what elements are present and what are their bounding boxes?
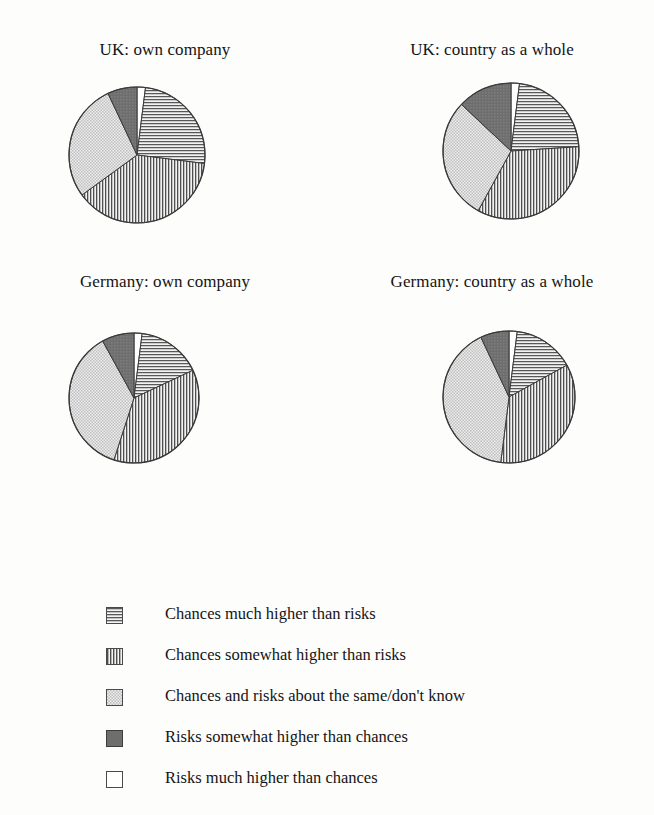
chart-title-germany-own-company: Germany: own company (0, 272, 330, 292)
legend-swatch-risks-much-higher (106, 771, 123, 788)
chart-panel-germany-own-company: Germany: own company (0, 272, 330, 522)
pie-svg-uk-country-as-a-whole (440, 80, 582, 222)
legend-swatch-chances-much-higher (106, 607, 123, 624)
chart-title-uk-own-company: UK: own company (0, 40, 330, 60)
chart-title-germany-country-as-a-whole: Germany: country as a whole (330, 272, 654, 292)
legend-swatch-about-the-same (106, 689, 123, 706)
pie-slice (137, 88, 205, 164)
legend-label-about-the-same: Chances and risks about the same/don't k… (165, 686, 465, 706)
legend-swatch-chances-somewhat-higher (106, 648, 123, 665)
chart-panel-uk-country-as-a-whole: UK: country as a whole (330, 40, 654, 290)
legend-label-risks-somewhat-higher: Risks somewhat higher than chances (165, 727, 408, 747)
pie-chart-germany-country-as-a-whole (440, 328, 578, 466)
chart-title-uk-country-as-a-whole: UK: country as a whole (330, 40, 654, 60)
chart-panel-germany-country-as-a-whole: Germany: country as a whole (330, 272, 654, 522)
pie-chart-germany-own-company (66, 330, 202, 466)
figure-root: UK: own company UK: country as a whole G… (0, 0, 654, 815)
pie-slice (511, 84, 579, 151)
pie-svg-germany-own-company (66, 330, 202, 466)
chart-panel-uk-own-company: UK: own company (0, 40, 330, 290)
pie-svg-germany-country-as-a-whole (440, 328, 578, 466)
pie-svg-uk-own-company (66, 84, 208, 226)
legend-swatch-risks-somewhat-higher (106, 730, 123, 747)
legend-label-risks-much-higher: Risks much higher than chances (165, 768, 378, 788)
pie-chart-uk-own-company (66, 84, 208, 226)
legend-label-chances-somewhat-higher: Chances somewhat higher than risks (165, 645, 406, 665)
legend-label-chances-much-higher: Chances much higher than risks (165, 604, 376, 624)
pie-chart-uk-country-as-a-whole (440, 80, 582, 222)
